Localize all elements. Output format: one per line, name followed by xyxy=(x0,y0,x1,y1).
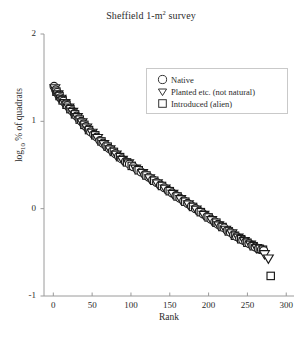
y-tick-label: 1 xyxy=(10,115,36,125)
y-axis-label-main: log xyxy=(14,150,24,162)
y-tick-label: 2 xyxy=(10,28,36,38)
y-axis-label-subscript: 10 xyxy=(19,143,26,150)
square-icon xyxy=(155,97,169,110)
legend-item-introduced: Introduced (alien) xyxy=(155,97,232,110)
data-point-square xyxy=(267,272,274,279)
legend-label-planted: Planted etc. (not natural) xyxy=(171,87,255,97)
legend-label-native: Native xyxy=(171,75,194,85)
y-tick-label: 0 xyxy=(10,203,36,213)
x-tick-label: 0 xyxy=(38,300,68,310)
plot-area xyxy=(0,0,302,338)
x-tick-label: 250 xyxy=(232,300,262,310)
x-tick-label: 100 xyxy=(116,300,146,310)
x-tick-label: 300 xyxy=(271,300,301,310)
x-tick-label: 150 xyxy=(155,300,185,310)
legend-label-introduced: Introduced (alien) xyxy=(171,99,232,109)
y-tick-label: -1 xyxy=(10,290,36,300)
chart-figure: Sheffield 1-m2 survey log10 % of quadrat… xyxy=(0,0,302,338)
x-tick-label: 200 xyxy=(194,300,224,310)
x-axis-label: Rank xyxy=(44,312,294,322)
chart-legend: Native Planted etc. (not natural) Introd… xyxy=(146,68,288,114)
x-tick-label: 50 xyxy=(77,300,107,310)
